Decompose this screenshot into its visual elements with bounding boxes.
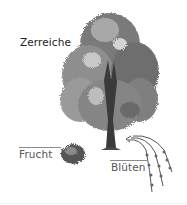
fruit-label: Frucht (19, 148, 52, 160)
bottom-divider (0, 203, 187, 204)
fruit-cupule (61, 144, 85, 164)
diagram-title: Zerreiche (20, 36, 71, 48)
blossoms-label: Blüten (111, 161, 146, 173)
tree-illustration (0, 0, 187, 205)
